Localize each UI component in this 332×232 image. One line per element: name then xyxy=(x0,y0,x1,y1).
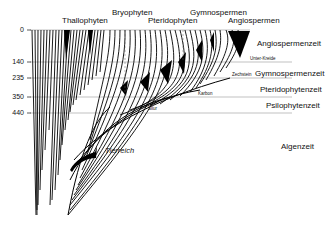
plant-lineages xyxy=(68,30,239,215)
tick-350: 350 xyxy=(0,93,24,100)
era-gymnospermenzeit: Gymnospermenzeit xyxy=(255,70,324,78)
label-angiospermen: Angiospermen xyxy=(228,17,280,25)
tick-140: 140 xyxy=(0,58,24,65)
era-psilophytenzeit: Psilophytenzeit xyxy=(266,102,320,110)
period-unter-kreide: Unter-Kreide xyxy=(250,57,276,62)
era-angiospermenzeit: Angiospermenzeit xyxy=(257,40,321,48)
period-zechstein: Zechstein xyxy=(232,73,252,78)
label-tierreich: Tierreich xyxy=(105,147,134,155)
phylogeny-diagram xyxy=(0,0,332,232)
tick-235: 235 xyxy=(0,74,24,81)
era-algenzeit: Algenzeit xyxy=(281,143,314,151)
era-pteridophytenzeit: Pteridophytenzeit xyxy=(260,86,322,94)
label-thallophyten: Thallophyten xyxy=(62,17,108,25)
thallophyten-lineages xyxy=(32,30,104,215)
period-silur: Silur xyxy=(148,107,157,112)
label-bryophyten: Bryophyten xyxy=(112,9,152,17)
angiospermen-wedge xyxy=(228,31,250,58)
tick-0: 0 xyxy=(0,26,24,33)
tick-440: 440 xyxy=(0,109,24,116)
period-karbon: Karbon xyxy=(198,92,213,97)
label-pteridophyten: Pteridophyten xyxy=(148,17,197,25)
